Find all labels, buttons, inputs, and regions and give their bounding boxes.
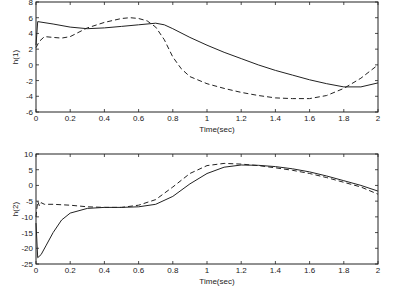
y-tick-label: -25 — [21, 260, 33, 269]
y-tick-label: -4 — [26, 92, 34, 101]
y-tick-label: -15 — [21, 229, 33, 238]
x-tick-label: 2 — [376, 266, 381, 275]
x-tick-label: 0.2 — [65, 114, 77, 123]
x-tick-label: 1.6 — [304, 114, 316, 123]
y-tick-label: 8 — [29, 0, 34, 7]
y-axis-label: h(1) — [11, 50, 20, 65]
y-tick-label: 0 — [29, 61, 34, 70]
y-tick-label: 6 — [29, 14, 34, 23]
y-axis-label: h(2) — [11, 202, 20, 217]
x-tick-label: 1.8 — [338, 114, 350, 123]
x-tick-label: 0 — [34, 114, 39, 123]
plot-h2: 00.20.40.60.811.21.41.61.82-25-20-15-10-… — [11, 150, 381, 286]
x-tick-label: 2 — [376, 114, 381, 123]
y-tick-label: -20 — [21, 244, 33, 253]
y-tick-label: 5 — [29, 166, 34, 175]
y-tick-label: 4 — [29, 29, 34, 38]
x-tick-label: 0.6 — [133, 114, 145, 123]
x-tick-label: 0.4 — [99, 266, 111, 275]
plot-h1: 00.20.40.60.811.21.41.61.82-6-4-202468Ti… — [11, 0, 381, 134]
y-tick-label: -10 — [21, 213, 33, 222]
y-tick-label: 2 — [29, 45, 34, 54]
x-tick-label: 1.4 — [270, 114, 282, 123]
x-tick-label: 1.2 — [236, 114, 248, 123]
x-axis-label: Time(sec) — [199, 277, 235, 286]
plot-frame — [36, 154, 378, 264]
x-tick-label: 1 — [205, 114, 210, 123]
y-tick-label: 10 — [24, 150, 33, 159]
y-tick-label: -5 — [26, 197, 34, 206]
figure: 00.20.40.60.811.21.41.61.82-6-4-202468Ti… — [0, 0, 396, 297]
x-tick-label: 0.4 — [99, 114, 111, 123]
x-tick-label: 0.8 — [167, 114, 179, 123]
x-axis-label: Time(sec) — [199, 125, 235, 134]
x-tick-label: 1.4 — [270, 266, 282, 275]
x-tick-label: 0 — [34, 266, 39, 275]
x-tick-label: 1.8 — [338, 266, 350, 275]
y-tick-label: -6 — [26, 108, 34, 117]
y-tick-label: -2 — [26, 77, 34, 86]
x-tick-label: 1 — [205, 266, 210, 275]
x-tick-label: 0.8 — [167, 266, 179, 275]
x-tick-label: 1.2 — [236, 266, 248, 275]
x-tick-label: 0.6 — [133, 266, 145, 275]
y-tick-label: 0 — [29, 181, 34, 190]
x-tick-label: 0.2 — [65, 266, 77, 275]
x-tick-label: 1.6 — [304, 266, 316, 275]
